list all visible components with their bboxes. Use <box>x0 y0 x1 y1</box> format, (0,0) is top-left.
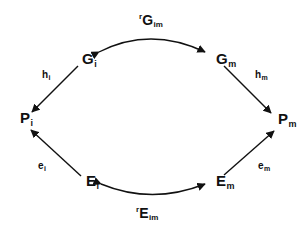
node-label-g-i: Gi <box>82 51 97 69</box>
node-base-p-i: P <box>20 109 30 126</box>
diagram-canvas: Gi Gm Pi Pm Ei Em rGim rEim hi hm ei em <box>0 0 307 242</box>
edge-label-sub-h-i: i <box>49 74 51 81</box>
node-sub-p-m: m <box>289 119 297 129</box>
node-label-e-i: Ei <box>86 173 99 191</box>
edge-label-sub-e-m: m <box>264 165 270 172</box>
edge-label-sub-h-m: m <box>262 74 268 81</box>
edge-label-sub-r-e-im: im <box>149 213 158 222</box>
edge-label-base-r-g-im: G <box>142 12 153 28</box>
edge-label-sub-e-i: i <box>44 165 46 172</box>
node-label-p-i: Pi <box>20 110 33 128</box>
node-sub-e-m: m <box>227 181 235 191</box>
node-base-p-m: P <box>278 110 288 127</box>
node-sub-p-i: i <box>31 118 34 128</box>
edge-h-i <box>32 66 78 112</box>
edge-label-base-h-i: h <box>42 69 48 80</box>
edge-r-e-im <box>101 184 205 195</box>
node-sub-e-i: i <box>97 181 100 191</box>
edge-label-h-m: hm <box>255 70 268 81</box>
node-label-p-m: Pm <box>278 111 297 129</box>
node-base-g-i: G <box>82 50 94 67</box>
edge-label-h-i: hi <box>42 70 51 81</box>
edge-r-g-im <box>99 39 205 52</box>
node-label-e-m: Em <box>216 173 235 191</box>
edge-label-e-m: em <box>258 161 270 172</box>
edge-label-base-r-e-im: E <box>139 205 148 221</box>
edge-label-sub-r-g-im: im <box>154 20 163 29</box>
edge-label-r-g-im: rGim <box>139 12 163 29</box>
edge-label-r-e-im: rEim <box>136 205 158 222</box>
edge-label-e-i: ei <box>38 161 46 172</box>
node-base-e-i: E <box>86 172 96 189</box>
node-sub-g-i: i <box>94 59 97 69</box>
node-sub-g-m: m <box>228 59 236 69</box>
node-base-g-m: G <box>216 50 228 67</box>
node-base-e-m: E <box>216 172 226 189</box>
edge-label-base-e-m: e <box>258 160 264 171</box>
edge-label-base-e-i: e <box>38 160 44 171</box>
node-label-g-m: Gm <box>216 51 236 69</box>
edge-label-base-h-m: h <box>255 69 261 80</box>
